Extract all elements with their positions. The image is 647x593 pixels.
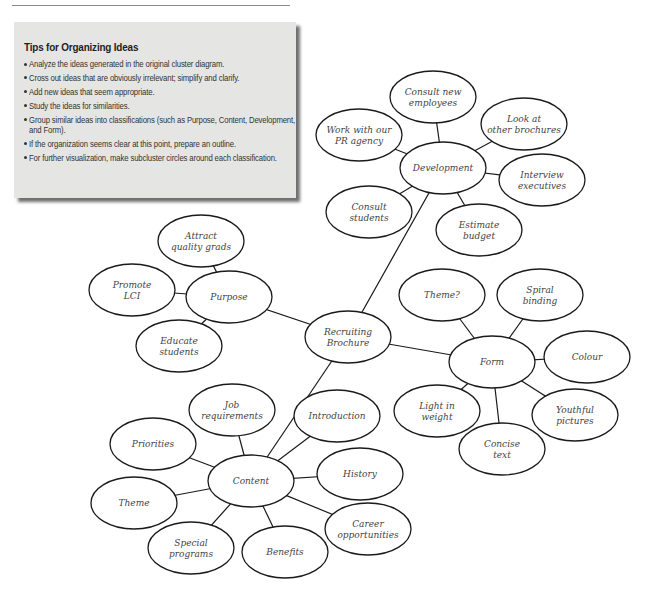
node-label: Brochure: [326, 338, 370, 348]
node-educate-students: Educatestudents: [136, 320, 222, 372]
node-theme-question: Theme?: [399, 269, 485, 321]
node-development: Development: [400, 142, 486, 194]
node-label: executives: [518, 181, 566, 191]
node-benefits: Benefits: [242, 526, 328, 578]
node-label: budget: [463, 231, 495, 241]
node-label: Content: [233, 476, 270, 486]
node-label: Estimate: [458, 220, 500, 230]
node-estimate-budget: Estimatebudget: [436, 204, 522, 256]
node-work-with-pr-agency: Work with ourPR agency: [316, 109, 402, 161]
node-interview-executives: Interviewexecutives: [499, 154, 585, 206]
node-label: Recruiting: [323, 327, 372, 337]
node-label: employees: [409, 98, 458, 108]
node-label: quality grads: [171, 242, 231, 252]
node-label: pictures: [556, 416, 594, 426]
node-priorities: Priorities: [110, 418, 196, 470]
node-label: students: [159, 347, 199, 357]
node-youthful-pictures: Youthfulpictures: [532, 389, 618, 441]
node-label: Educate: [159, 336, 197, 346]
node-recruiting-brochure: RecruitingBrochure: [305, 311, 391, 363]
idea-nodes: RecruitingBrochureDevelopmentConsult new…: [89, 71, 630, 578]
node-promote-lci: PromoteLCI: [89, 264, 175, 316]
node-label: Purpose: [209, 292, 247, 302]
node-label: Consult new: [405, 87, 462, 97]
node-label: Spiral: [526, 285, 553, 295]
node-label: Work with our: [326, 125, 392, 135]
node-history: History: [317, 448, 403, 500]
node-label: Look at: [506, 114, 541, 124]
cluster-diagram: RecruitingBrochureDevelopmentConsult new…: [0, 0, 647, 593]
node-label: Consult: [351, 202, 386, 212]
node-label: text: [493, 450, 511, 460]
node-light-in-weight: Light inweight: [394, 385, 480, 437]
node-label: Form: [479, 357, 504, 367]
node-introduction: Introduction: [294, 390, 380, 442]
node-label: students: [349, 213, 389, 223]
node-label: other brochures: [487, 125, 561, 135]
node-label: programs: [169, 549, 213, 559]
node-consult-new-employees: Consult newemployees: [390, 71, 476, 123]
node-label: Concise: [484, 439, 520, 449]
node-label: Colour: [572, 352, 603, 362]
node-label: Special: [174, 538, 208, 548]
node-label: Theme: [119, 498, 150, 508]
node-concise-text: Concisetext: [459, 423, 545, 475]
node-theme: Theme: [91, 477, 177, 529]
node-label: Promote: [112, 280, 152, 290]
node-purpose: Purpose: [186, 271, 272, 323]
node-label: Theme?: [424, 290, 460, 300]
node-label: Light in: [418, 401, 455, 411]
node-label: Attract: [184, 231, 217, 241]
node-label: weight: [421, 412, 452, 422]
node-consult-students: Consultstudents: [326, 186, 412, 238]
node-label: LCI: [123, 291, 141, 301]
node-label: opportunities: [337, 530, 399, 540]
node-colour: Colour: [544, 331, 630, 383]
node-label: Introduction: [308, 411, 366, 421]
node-look-at-other-brochures: Look atother brochures: [481, 98, 567, 150]
node-label: Benefits: [265, 547, 304, 557]
node-label: Priorities: [131, 439, 175, 449]
node-label: Interview: [519, 170, 564, 180]
node-spiral-binding: Spiralbinding: [497, 269, 583, 321]
node-career-opportunities: Careeropportunities: [325, 503, 411, 555]
node-content: Content: [208, 455, 294, 507]
node-label: Job: [223, 400, 240, 410]
node-attract-quality-grads: Attractquality grads: [158, 215, 244, 267]
node-label: Youthful: [556, 405, 594, 415]
node-label: Career: [352, 519, 384, 529]
node-job-requirements: Jobrequirements: [189, 384, 275, 436]
node-label: requirements: [201, 411, 263, 421]
node-special-programs: Specialprograms: [148, 522, 234, 574]
node-label: History: [342, 469, 378, 479]
node-label: Development: [412, 163, 474, 173]
node-label: binding: [523, 296, 558, 306]
node-form: Form: [449, 336, 535, 388]
node-label: PR agency: [334, 136, 384, 146]
